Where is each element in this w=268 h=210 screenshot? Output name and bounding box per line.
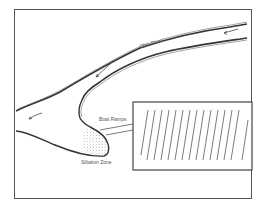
boat-ramp-lines (100, 124, 133, 135)
river-north-bank (16, 24, 247, 111)
river-south-bank (82, 38, 247, 100)
river-diagram (0, 0, 268, 210)
siltation-zone-label: Siltation Zone (81, 160, 112, 165)
siltation-zone (83, 128, 108, 156)
boat-ramps-label: Boat Ramps (99, 117, 127, 122)
